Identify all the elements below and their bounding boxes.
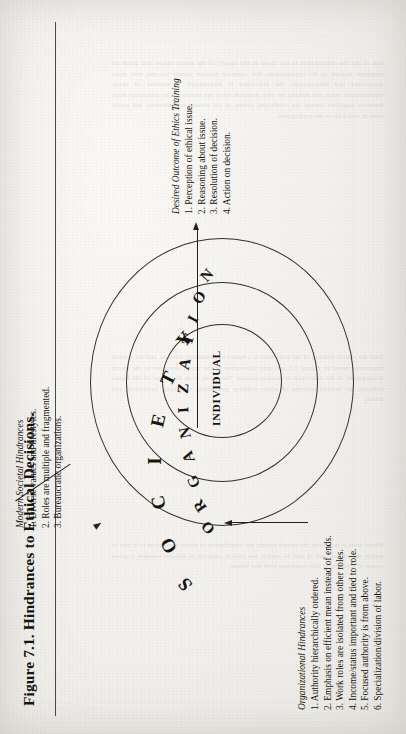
annotation-modern-societal-hindrances: Modern Societal Hindrances 1. Diverse va… — [14, 387, 65, 528]
annotation-heading: Modern Societal Hindrances — [14, 387, 27, 528]
concentric-ellipse-diagram: SOCIETY ORGANIZATION INDIVIDUAL — [70, 224, 370, 534]
annotation-heading: Desired Outcome of Ethics Training — [170, 78, 183, 214]
annotation-desired-outcome-of-ethics-training: Desired Outcome of Ethics Training 1. Pe… — [170, 78, 233, 214]
page-rule-line — [55, 22, 56, 716]
arrow-individual-to-outcome — [192, 220, 204, 428]
annotation-item: 2. Reasoning about issue. — [196, 78, 209, 214]
annotation-item: 3. Work roles are isolated from other ro… — [334, 535, 347, 710]
annotation-item: 1. Authority hierarchically ordered. — [309, 535, 322, 710]
annotation-item: 1. Diverse values and lifestyles. — [27, 387, 40, 528]
annotation-item: 4. Income/status important and tied to r… — [347, 535, 360, 710]
ellipse-label-organization: ORGANIZATION — [174, 330, 192, 472]
annotation-item: 3. Resolution of decision. — [208, 78, 221, 214]
ellipse-label-society: SOCIETY — [144, 413, 166, 508]
annotation-organizational-hindrances: Organizational Hindrances 1. Authority h… — [296, 535, 385, 710]
annotation-item: 2. Emphasis on efficient mean instead of… — [322, 535, 335, 710]
annotation-item: 4. Action on decision. — [221, 78, 234, 214]
annotation-item: 3. Bureaucratic organizations. — [52, 387, 65, 528]
figure-7-1: Figure 7.1. Hindrances to Ethical Decisi… — [0, 0, 406, 734]
annotation-heading: Organizational Hindrances — [296, 535, 309, 710]
annotation-item: 2. Roles are multiple and fragmented. — [40, 387, 53, 528]
ellipse-label-individual: INDIVIDUAL — [210, 350, 222, 426]
figure-stage: Figure 7.1. Hindrances to Ethical Decisi… — [0, 0, 406, 734]
annotation-item: 5. Focused authority is from above. — [359, 535, 372, 710]
annotation-item: 6. Specialization/division of labor. — [372, 535, 385, 710]
arrow-organizational-to-organization — [224, 516, 308, 528]
annotation-item: 1. Perception of ethical issue. — [183, 78, 196, 214]
